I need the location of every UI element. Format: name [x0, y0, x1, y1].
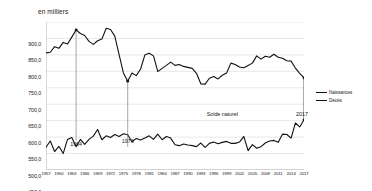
x-axis-tick-label: 2017: [299, 171, 308, 176]
x-axis-tick-label: 1972: [106, 171, 115, 176]
x-axis-tick-label: 1984: [158, 171, 167, 176]
x-axis-tick-label: 1993: [196, 171, 205, 176]
x-axis-tick-label: 2011: [274, 171, 283, 176]
x-axis-tick-label: 2002: [235, 171, 244, 176]
y-axis-tick-label: 700,0: [28, 107, 41, 113]
y-axis-tick-label: 450,0: [28, 189, 41, 191]
annotation-label-1964: 1964: [70, 141, 82, 147]
x-axis-tick-label: 1966: [80, 171, 89, 176]
y-axis-tick-label: 500,0: [28, 173, 41, 179]
legend-label-naissances: Naissances: [329, 90, 352, 95]
x-axis-tick-label: 1999: [222, 171, 231, 176]
legend-label-deces: Décès: [329, 98, 342, 103]
chart-plot-svg: [46, 22, 304, 170]
x-axis-tick-label: 1996: [209, 171, 218, 176]
x-axis-tick-label: 2014: [287, 171, 296, 176]
x-axis-tick-label: 1975: [119, 171, 128, 176]
annotation-label-2017: 2017: [296, 111, 308, 117]
x-axis-tick-label: 2008: [261, 171, 270, 176]
x-axis-tick-labels: 1957196019631966196919721975197819811984…: [46, 171, 304, 185]
y-axis-tick-label: 900,0: [28, 41, 41, 47]
y-axis-unit-label: en milliers: [38, 8, 68, 15]
x-axis-tick-label: 1978: [132, 171, 141, 176]
legend-line-swatch-deces: [316, 100, 327, 101]
annotation-label-1976: 1976: [122, 138, 134, 144]
x-axis-tick-label: 1963: [67, 171, 76, 176]
x-axis-tick-label: 2005: [248, 171, 257, 176]
x-axis-tick-label: 1969: [93, 171, 102, 176]
y-axis-tick-labels: 900,0850,0800,0750,0700,0650,0600,0550,0…: [0, 22, 44, 170]
y-axis-tick-label: 750,0: [28, 90, 41, 96]
x-axis-tick-label: 1957: [41, 171, 50, 176]
y-axis-tick-label: 550,0: [28, 156, 41, 162]
chart-container: en milliers 900,0850,0800,0750,0700,0650…: [0, 0, 372, 191]
y-axis-tick-label: 800,0: [28, 74, 41, 80]
y-axis-tick-label: 600,0: [28, 140, 41, 146]
chart-legend: Naissances Décès: [316, 88, 370, 104]
annotation-label-solde-naturel: Solde naturel: [207, 111, 238, 117]
x-axis-tick-label: 1981: [145, 171, 154, 176]
y-axis-tick-label: 850,0: [28, 57, 41, 63]
x-axis-tick-label: 1960: [54, 171, 63, 176]
plot-area: [46, 22, 304, 170]
x-axis-tick-label: 1987: [170, 171, 179, 176]
x-axis-tick-label: 1990: [183, 171, 192, 176]
legend-item-deces[interactable]: Décès: [316, 96, 370, 104]
legend-item-naissances[interactable]: Naissances: [316, 88, 370, 96]
legend-line-swatch-naissances: [316, 92, 327, 93]
y-axis-tick-label: 650,0: [28, 123, 41, 129]
